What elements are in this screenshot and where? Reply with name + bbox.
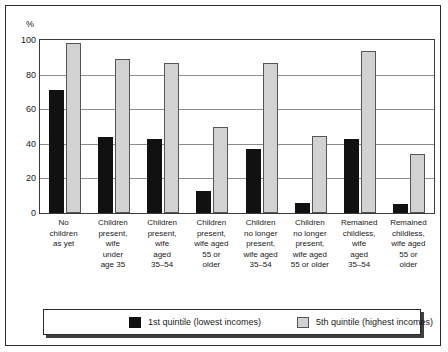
bar-group xyxy=(237,40,286,213)
plot-area: 020406080100 xyxy=(39,39,435,214)
bar-q1 xyxy=(196,191,211,213)
y-tick-label: 0 xyxy=(31,209,36,218)
bar-q1 xyxy=(295,203,310,213)
x-axis-label: Remainedchildless,wifeaged35–54 xyxy=(335,218,384,271)
legend-label-q1: 1st quintile (lowest incomes) xyxy=(148,317,261,327)
x-axis-label: Childrenno longerpresent,wife aged55 or … xyxy=(285,218,334,271)
legend-label-q5: 5th quintile (highest incomes) xyxy=(316,317,433,327)
bar-q5 xyxy=(312,136,327,213)
bar-group xyxy=(286,40,335,213)
bar-group xyxy=(40,40,89,213)
y-axis-unit-label: % xyxy=(26,19,34,29)
x-axis-label: Remainedchildless,wife aged55 orolder xyxy=(384,218,433,271)
y-tick-label: 80 xyxy=(26,70,36,79)
bar-q5 xyxy=(66,43,81,213)
bar-group xyxy=(89,40,138,213)
bar-q1 xyxy=(147,139,162,213)
chart-figure: % 020406080100 Nochildrenas yetChildrenp… xyxy=(5,5,441,346)
bar-group xyxy=(139,40,188,213)
y-tick-label: 60 xyxy=(26,105,36,114)
bar-group xyxy=(336,40,385,213)
bar-q5 xyxy=(115,59,130,213)
x-axis-labels: Nochildrenas yetChildrenpresent,wifeunde… xyxy=(39,218,435,296)
legend-swatch-q1 xyxy=(129,317,141,328)
x-axis-label: Childrenpresent,wife aged55 orolder xyxy=(187,218,236,271)
bar-q1 xyxy=(393,204,408,213)
bar-group xyxy=(188,40,237,213)
bar-q5 xyxy=(263,63,278,214)
x-axis-label: Childrenpresent,wifeaged35–54 xyxy=(138,218,187,271)
bar-q1 xyxy=(344,139,359,213)
x-axis-label: Childrenpresent,wifeunderage 35 xyxy=(88,218,137,271)
bar-q1 xyxy=(98,137,113,213)
x-axis-label: Nochildrenas yet xyxy=(39,218,88,250)
y-tick-label: 100 xyxy=(21,36,36,45)
bar-q1 xyxy=(49,90,64,213)
legend-entry-q5: 5th quintile (highest incomes) xyxy=(297,310,433,334)
bar-q5 xyxy=(361,51,376,213)
bar-q1 xyxy=(246,149,261,213)
legend-entry-q1: 1st quintile (lowest incomes) xyxy=(129,310,261,334)
y-tick-label: 40 xyxy=(26,139,36,148)
bar-q5 xyxy=(164,63,179,214)
chart-legend: 1st quintile (lowest incomes) 5th quinti… xyxy=(43,309,421,335)
legend-swatch-q5 xyxy=(297,317,309,328)
bar-q5 xyxy=(213,127,228,213)
y-tick-label: 20 xyxy=(26,174,36,183)
bar-q5 xyxy=(410,154,425,213)
x-axis-label: Childrenno longerpresent,wife aged35–54 xyxy=(236,218,285,271)
bar-group xyxy=(385,40,434,213)
